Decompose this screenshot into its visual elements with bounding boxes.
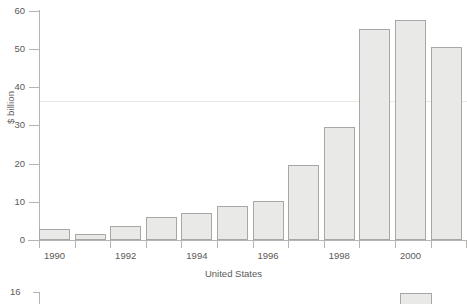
y-axis-line — [39, 10, 40, 241]
chart2-bar-partial — [400, 293, 432, 304]
y-tick-40 — [29, 87, 39, 88]
y-tick-0 — [29, 240, 39, 241]
x-tick-2 — [110, 241, 111, 248]
x-tick-1 — [75, 241, 76, 248]
x-tick-label-1996: 1996 — [248, 250, 288, 261]
x-tick-5 — [217, 241, 218, 248]
bar-1996 — [253, 201, 284, 240]
bar-1991 — [75, 234, 106, 240]
x-tick-0 — [39, 241, 40, 248]
y-tick-label-10: 10 — [0, 196, 25, 207]
y-tick-20 — [29, 164, 39, 165]
x-tick-8 — [324, 241, 325, 248]
bar-1997 — [288, 165, 319, 240]
y-tick-label-50: 50 — [0, 43, 25, 54]
x-axis-title: United States — [0, 268, 467, 279]
x-tick-9 — [359, 241, 360, 248]
y-tick-60 — [29, 11, 39, 12]
y-tick-label-60: 60 — [0, 5, 25, 16]
bar-chart-united-states: $ billion 60 50 40 30 20 10 0 — [0, 0, 467, 262]
bar-chart-second-cropped: 16 — [0, 286, 467, 304]
y-tick-label-30: 30 — [0, 119, 25, 130]
bar-2001 — [431, 47, 462, 240]
bar-1995 — [217, 206, 248, 240]
bar-2000 — [395, 20, 426, 240]
bar-1993 — [146, 217, 177, 240]
x-tick-label-1998: 1998 — [319, 250, 359, 261]
bar-1990 — [39, 229, 70, 240]
x-tick-label-2000: 2000 — [391, 250, 431, 261]
y-tick-label-20: 20 — [0, 158, 25, 169]
y-tick-label-40: 40 — [0, 81, 25, 92]
bar-1992 — [110, 226, 141, 240]
y-tick-10 — [29, 202, 39, 203]
bar-1998 — [324, 127, 355, 240]
x-tick-label-1994: 1994 — [177, 250, 217, 261]
bar-1994 — [181, 213, 212, 240]
chart2-y-axis-line — [39, 292, 40, 304]
x-tick-label-1990: 1990 — [35, 250, 75, 261]
x-tick-3 — [146, 241, 147, 248]
figure-page: $ billion 60 50 40 30 20 10 0 — [0, 0, 467, 304]
y-tick-30 — [29, 125, 39, 126]
x-tick-7 — [288, 241, 289, 248]
y-tick-label-0: 0 — [0, 234, 25, 245]
x-tick-10 — [395, 241, 396, 248]
y-tick-50 — [29, 49, 39, 50]
x-tick-6 — [253, 241, 254, 248]
x-tick-11 — [431, 241, 432, 248]
x-axis-line — [28, 240, 467, 241]
x-tick-label-1992: 1992 — [106, 250, 146, 261]
x-tick-4 — [181, 241, 182, 248]
bar-1999 — [359, 29, 390, 240]
chart2-y-tick-label-16: 16 — [10, 286, 21, 297]
